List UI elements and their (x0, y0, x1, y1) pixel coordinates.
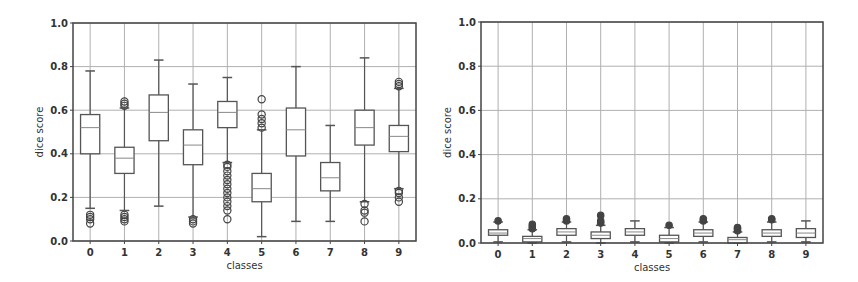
x-tick-label: 7 (734, 249, 741, 260)
x-tick-label: 2 (155, 247, 162, 258)
chart-canvas-left: 0.00.20.40.60.81.00123456789classesdice … (0, 0, 430, 282)
y-tick-label: 0.8 (458, 61, 476, 72)
outlier-point (529, 221, 535, 227)
x-tick-label: 8 (361, 247, 368, 258)
box-class-9 (389, 78, 408, 205)
y-axis-label: dice score (34, 107, 45, 158)
box-class-7 (321, 125, 340, 221)
y-tick-label: 0.6 (50, 105, 68, 116)
grid (481, 22, 823, 243)
y-axis-label: dice score (442, 107, 453, 158)
outlier-point (563, 215, 569, 221)
box-class-7 (728, 224, 747, 243)
outlier-point (734, 224, 740, 230)
y-tick-label: 0.8 (50, 61, 68, 72)
box-class-3 (183, 84, 202, 227)
x-tick-label: 1 (121, 247, 128, 258)
box-class-9 (796, 221, 815, 242)
x-axis: 0123456789 (495, 243, 810, 260)
outlier-point (495, 218, 501, 224)
y-axis: 0.00.20.40.60.81.0 (50, 18, 73, 247)
box-class-2 (557, 215, 576, 241)
boxplot-left: 0.00.20.40.60.81.00123456789classesdice … (0, 0, 430, 282)
x-axis-label: classes (634, 262, 670, 273)
y-axis: 0.00.20.40.60.81.0 (458, 17, 481, 249)
outlier-point (666, 222, 672, 228)
y-tick-label: 0.0 (458, 238, 476, 249)
x-tick-label: 8 (768, 249, 775, 260)
box-class-6 (286, 67, 305, 222)
x-axis: 0123456789 (87, 241, 403, 258)
box-class-1 (115, 98, 134, 225)
x-tick-label: 7 (327, 247, 334, 258)
box-class-0 (489, 218, 508, 242)
y-tick-label: 0.2 (50, 192, 68, 203)
box-class-8 (762, 215, 781, 241)
box-class-1 (523, 221, 542, 243)
box-class-4 (625, 221, 644, 242)
box-class-5 (660, 222, 679, 243)
y-tick-label: 0.2 (458, 193, 476, 204)
box-class-0 (81, 71, 100, 227)
y-tick-label: 1.0 (50, 18, 68, 29)
x-tick-label: 5 (258, 247, 265, 258)
x-tick-label: 2 (563, 249, 570, 260)
y-tick-label: 1.0 (458, 17, 476, 28)
y-tick-label: 0.0 (50, 236, 68, 247)
chart-canvas-right: 0.00.20.40.60.81.00123456789classesdice … (430, 0, 858, 282)
box-class-3 (591, 212, 610, 243)
x-tick-label: 3 (597, 249, 604, 260)
x-tick-label: 6 (292, 247, 299, 258)
x-tick-label: 0 (495, 249, 502, 260)
y-tick-label: 0.4 (458, 149, 476, 160)
x-tick-label: 0 (87, 247, 94, 258)
outlier-point (598, 212, 604, 218)
x-tick-label: 9 (395, 247, 402, 258)
outlier-point (700, 215, 706, 221)
box-class-2 (149, 60, 168, 206)
box-class-8 (355, 58, 374, 225)
x-tick-label: 6 (700, 249, 707, 260)
box-class-6 (694, 215, 713, 241)
boxplot-right: 0.00.20.40.60.81.00123456789classesdice … (430, 0, 858, 282)
x-tick-label: 4 (224, 247, 231, 258)
x-axis-label: classes (226, 260, 262, 271)
x-tick-label: 5 (666, 249, 673, 260)
box-class-4 (218, 78, 237, 223)
y-tick-label: 0.6 (458, 105, 476, 116)
x-tick-label: 1 (529, 249, 536, 260)
y-tick-label: 0.4 (50, 148, 68, 159)
outlier-point (769, 215, 775, 221)
x-tick-label: 3 (190, 247, 197, 258)
x-tick-label: 4 (631, 249, 638, 260)
x-tick-label: 9 (802, 249, 809, 260)
